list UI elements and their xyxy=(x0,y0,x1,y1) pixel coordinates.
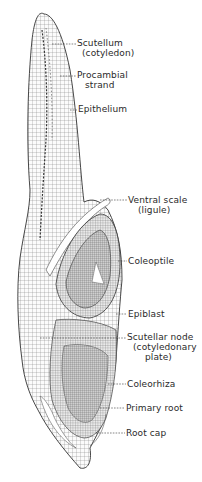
label-coleorhiza: Coleorhiza xyxy=(127,379,175,389)
label-coleoptile: Coleoptile xyxy=(128,256,174,266)
label-scutellar-node: Scutellar node (cotyledonary plate) xyxy=(127,332,197,362)
label-epithelium: Epithelium xyxy=(78,104,127,114)
label-ventral-scale: Ventral scale (ligule) xyxy=(128,195,187,215)
label-epiblast: Epiblast xyxy=(128,309,165,319)
label-scutellum: Scutellum (cotyledon) xyxy=(77,38,134,58)
label-root-cap: Root cap xyxy=(126,428,166,438)
label-procambial-strand: Procambial strand xyxy=(77,70,128,90)
embryo-diagram: Scutellum (cotyledon) Procambial strand … xyxy=(0,0,202,482)
label-primary-root: Primary root xyxy=(126,403,183,413)
